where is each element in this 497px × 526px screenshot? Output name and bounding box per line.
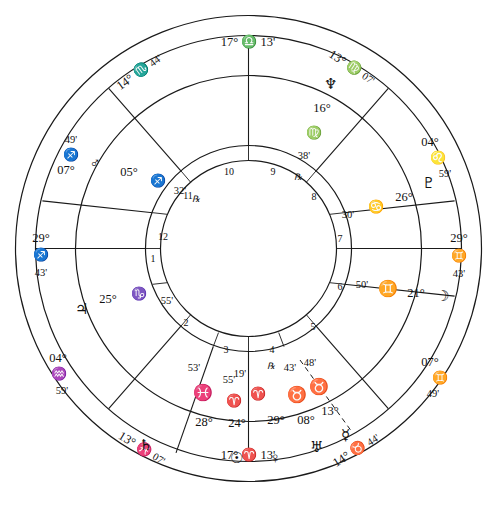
uranus-icon: ♅: [310, 438, 323, 456]
house-number-6: 6: [338, 281, 343, 292]
house-number-8: 8: [312, 191, 317, 202]
cusp-spoke-12: [42, 201, 152, 213]
aries-icon-sun: ♈: [226, 393, 242, 409]
pisces-icon-planet: ♓: [193, 383, 213, 402]
sun-degree: 24°: [228, 416, 246, 431]
cusp-12-minute: 49': [65, 134, 77, 145]
house-number-3: 3: [224, 344, 229, 355]
cusp-8-minute: 59': [439, 168, 451, 179]
virgo-icon-neptune: ♍: [306, 125, 322, 141]
gemini-icon-moon: ♊: [378, 279, 398, 298]
moon-degree: 21°: [407, 286, 425, 301]
saturn-minute: 43': [284, 362, 296, 373]
cusp-2-degree: 04°: [49, 351, 67, 366]
capricorn-icon-jupiter: ♑: [131, 286, 147, 302]
ascendant-minute: 43': [35, 267, 47, 278]
gemini-icon-dsc: ♊: [451, 248, 467, 264]
pluto-minute: 30': [342, 209, 354, 220]
aries-icon: ♈: [241, 447, 257, 462]
cusp-8-degree: 04°: [421, 135, 439, 150]
midheaven-label: 17° ♎ 13': [221, 34, 276, 50]
mars-degree: 05°: [120, 165, 138, 180]
venus-degree: 29°: [267, 413, 285, 428]
gemini-icon-cusp6: ♊: [432, 370, 448, 386]
taurus-icon-uranus: ♉: [309, 377, 329, 396]
leo-icon-cusp8: ♌: [430, 150, 446, 166]
house-number-11: 11: [183, 190, 193, 201]
moon-icon: ☽: [436, 287, 449, 305]
taurus-icon-saturn: ♉: [287, 385, 307, 404]
cusp-6-minute: 49': [427, 388, 439, 399]
descendant-degree: 29°: [450, 231, 468, 246]
sagittarius-icon-cusp12: ♐: [63, 147, 79, 163]
sagittarius-icon-asc: ♐: [33, 247, 49, 263]
pisces-degree: 28°: [195, 415, 213, 430]
house-ring-outer-circle: [146, 146, 352, 352]
mercury-icon: ☿: [341, 426, 350, 444]
jupiter-minute: 55': [161, 295, 173, 306]
cusp-spoke-5: [316, 326, 388, 409]
neptune-icon: ♆: [324, 75, 337, 93]
neptune-degree: 16°: [313, 101, 331, 116]
cancer-icon-pluto: ♋: [368, 199, 384, 215]
cusp-6-degree: 07°: [421, 355, 439, 370]
moon-minute: 50': [356, 279, 368, 290]
uranus-minute: 48': [304, 357, 316, 368]
house-number-2: 2: [184, 317, 189, 328]
saturn-degree: 08°: [297, 413, 315, 428]
chart-wheel: [0, 0, 497, 497]
pisces-minute: 53': [188, 362, 200, 373]
jupiter-degree: 25°: [99, 292, 117, 307]
house-number-9: 9: [271, 166, 276, 177]
venus-minute: 19': [234, 368, 246, 379]
sun-minute: 55': [223, 374, 235, 385]
house-ring-inner-circle: [161, 161, 337, 337]
pluto-degree: 26°: [395, 190, 413, 205]
mars-icon: ♂: [89, 155, 100, 172]
neptune-retrograde-icon: ℞: [294, 172, 302, 182]
house-number-5: 5: [311, 321, 316, 332]
neptune-minute: 38': [298, 150, 310, 161]
house-number-12: 12: [158, 231, 168, 242]
house-ring-ticks: [146, 146, 352, 352]
cusp-spoke-11: [109, 88, 181, 171]
saturn-retrograde-icon: ℞: [267, 361, 275, 371]
sagittarius-icon-mars: ♐: [150, 173, 166, 189]
house-number-4: 4: [270, 344, 275, 355]
house-number-1: 1: [151, 253, 156, 264]
descendant-minute: 43': [453, 268, 465, 279]
sun-icon: ☉: [230, 449, 243, 467]
cusp-2-minute: 59': [56, 385, 68, 396]
house-number-7: 7: [338, 233, 343, 244]
aquarius-icon-cusp2: ♒: [51, 366, 67, 382]
cusp-spoke-2: [109, 326, 181, 409]
house-number-10: 10: [224, 166, 234, 177]
ascendant-degree: 29°: [32, 231, 50, 246]
jupiter-icon: ♃: [75, 300, 88, 318]
pluto-icon: ♇: [422, 174, 435, 192]
libra-icon: ♎: [241, 34, 257, 49]
cusp-spokes: [36, 36, 462, 462]
mars-retrograde-icon: ℞: [192, 194, 200, 204]
uranus-degree: 13°: [321, 404, 339, 419]
saturn-icon: ♄: [139, 436, 152, 454]
venus-icon: ♀: [269, 450, 280, 467]
cusp-12-degree: 07°: [57, 163, 75, 178]
aries-icon-venus: ♈: [250, 386, 266, 402]
